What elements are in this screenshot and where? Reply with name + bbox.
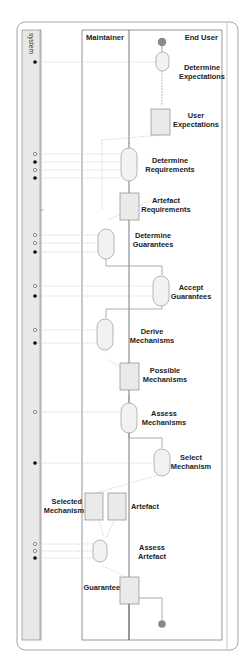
action-determine-guarantees[interactable] <box>98 229 114 259</box>
output-pin-filled <box>33 294 36 297</box>
input-pin-open <box>33 284 36 287</box>
output-pin-filled <box>33 160 36 163</box>
input-pin-open <box>33 241 36 244</box>
label-assess-artefact: AssessArtefact <box>138 543 166 561</box>
system-lane-title: system <box>27 33 35 54</box>
lane-title-end-user: End User <box>185 33 218 42</box>
lane-title-maintainer: Maintainer <box>86 33 124 42</box>
input-pin-open <box>33 328 36 331</box>
action-determine-expectations[interactable] <box>156 52 169 71</box>
object-artefact-requirements[interactable] <box>120 193 139 220</box>
input-pin-open <box>33 410 36 413</box>
label-determine-expectations: DetermineExpectations <box>179 63 225 81</box>
initial-node <box>158 38 167 47</box>
output-pin-filled <box>33 60 36 63</box>
input-pin-open <box>33 233 36 236</box>
object-user-expectations[interactable] <box>151 109 170 135</box>
object-artefact[interactable] <box>108 493 126 520</box>
output-pin-filled <box>33 176 36 179</box>
action-determine-requirements[interactable] <box>121 148 137 181</box>
input-pin-open <box>33 542 36 545</box>
activity-diagram: system Maintainer End User <box>0 0 252 667</box>
label-selected-mechanism: SelectedMechanism <box>44 497 85 515</box>
action-assess-mechanisms[interactable] <box>121 403 137 433</box>
final-node <box>158 620 166 628</box>
action-assess-artefact[interactable] <box>93 540 107 562</box>
input-pin-open <box>33 549 36 552</box>
input-pin-open <box>33 152 36 155</box>
input-pin-open <box>33 168 36 171</box>
output-pin-filled <box>33 250 36 253</box>
output-pin-filled <box>33 461 36 464</box>
action-accept-guarantees[interactable] <box>153 276 169 306</box>
action-derive-mechanisms[interactable] <box>97 319 113 350</box>
system-lane <box>22 30 41 640</box>
output-pin-filled <box>33 556 36 559</box>
object-selected-mechanism[interactable] <box>85 493 103 520</box>
label-artefact: Artefact <box>131 502 159 511</box>
action-select-mechanism[interactable] <box>154 449 170 476</box>
object-guarantee[interactable] <box>120 577 139 604</box>
output-pin-filled <box>33 341 36 344</box>
label-guarantee: Guarantee <box>83 583 120 592</box>
label-determine-requirements: DetermineRequirements <box>145 156 194 174</box>
object-possible-mechanisms[interactable] <box>120 363 139 390</box>
label-determine-guarantees: DetermineGuarantees <box>133 231 174 249</box>
